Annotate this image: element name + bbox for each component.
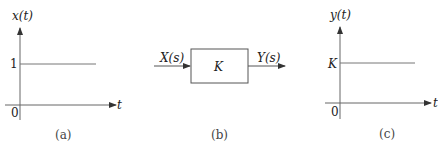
panel-b-block-diagram: X(s) K Y(s) (b) (154, 49, 285, 142)
diagram-canvas: x(t) t 0 1 (a) X(s) K Y(s) (b) y(t) t 0 … (0, 0, 438, 154)
level-label: K (327, 57, 338, 71)
origin-label: 0 (331, 105, 339, 119)
output-label: Y(s) (257, 51, 281, 65)
origin-label: 0 (11, 106, 19, 120)
panel-a-input-step: x(t) t 0 1 (a) (5, 9, 122, 142)
caption-b: (b) (211, 128, 228, 142)
x-axis-label: t (117, 98, 122, 112)
caption-c: (c) (379, 127, 395, 141)
y-axis-label: x(t) (12, 9, 33, 23)
y-axis-label: y(t) (329, 8, 351, 22)
x-axis-label: t (433, 96, 438, 110)
block-label: K (213, 60, 224, 74)
level-label: 1 (10, 57, 18, 71)
panel-c-output-step: y(t) t 0 K (c) (325, 8, 438, 141)
caption-a: (a) (55, 128, 72, 142)
input-label: X(s) (159, 51, 184, 65)
